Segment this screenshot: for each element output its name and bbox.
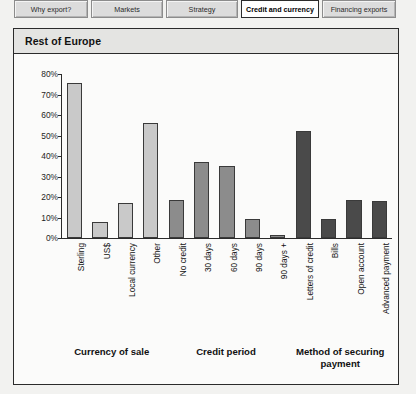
y-axis-tick-mark: [58, 177, 62, 178]
bar-advanced-payment: [372, 201, 387, 238]
tab-why-export[interactable]: Why export?: [14, 0, 88, 18]
tab-financing-exports[interactable]: Financing exports: [322, 0, 396, 18]
x-axis-label: Local currency: [128, 243, 136, 297]
x-axis-label: No credit: [179, 243, 187, 276]
x-axis-label: Advanced payment: [382, 243, 390, 314]
bar-60-days: [219, 166, 234, 238]
x-axis-group-labels: Currency of saleCredit periodMethod of s…: [61, 346, 391, 384]
x-axis-label: 90 days +: [280, 243, 288, 279]
x-axis-label: 90 days: [255, 243, 263, 272]
y-axis-tick-label: 40%: [41, 151, 58, 161]
x-axis-label: Letters of credit: [306, 243, 314, 300]
chart-panel: Rest of Europe 0%10%20%30%40%50%60%70%80…: [13, 28, 399, 385]
chart-axes: SterlingUS$Local currencyOtherNo credit3…: [61, 54, 391, 384]
tab-credit-and-currency[interactable]: Credit and currency: [241, 0, 319, 18]
bar-local-currency: [118, 203, 133, 238]
plot-wrapper: 0%10%20%30%40%50%60%70%80% SterlingUS$Lo…: [14, 54, 398, 384]
group-label: Currency of sale: [61, 346, 163, 358]
group-label: Credit period: [163, 346, 290, 358]
x-axis-category-labels: SterlingUS$Local currencyOtherNo credit3…: [61, 240, 391, 340]
y-axis-tick-mark: [58, 238, 62, 239]
page-title: Rest of Europe: [25, 35, 101, 47]
plot-area: [61, 74, 392, 239]
bar-series: [62, 74, 392, 238]
tab-bar: Why export? Markets Strategy Credit and …: [0, 0, 416, 22]
y-axis-tick-label: 60%: [41, 110, 58, 120]
bar-no-credit: [169, 200, 184, 238]
y-axis-tick-label: 50%: [41, 131, 58, 141]
y-axis-tick-mark: [58, 95, 62, 96]
x-axis-label: Sterling: [77, 243, 85, 271]
x-axis-label: 60 days: [230, 243, 238, 272]
x-axis-label: 30 days: [204, 243, 212, 272]
y-axis-tick-label: 80%: [41, 69, 58, 79]
bar-sterling: [67, 83, 82, 238]
y-axis-tick-mark: [58, 136, 62, 137]
y-axis-tick-label: 20%: [41, 192, 58, 202]
bar-other: [143, 123, 158, 238]
y-axis-tick-mark: [58, 197, 62, 198]
x-axis-label: Open account: [357, 243, 365, 295]
x-axis-label: Other: [153, 243, 161, 264]
y-axis-labels: 0%10%20%30%40%50%60%70%80%: [28, 54, 58, 384]
y-axis-tick-mark: [58, 74, 62, 75]
y-axis-tick-label: 0%: [46, 233, 58, 243]
y-axis-tick-label: 70%: [41, 90, 58, 100]
bar-30-days: [194, 162, 209, 238]
tab-markets[interactable]: Markets: [91, 0, 163, 18]
y-axis-tick-mark: [58, 218, 62, 219]
x-axis-label: US$: [103, 243, 111, 259]
bar-bills: [321, 219, 336, 238]
y-axis-tick-label: 30%: [41, 172, 58, 182]
x-axis-label: Bills: [331, 243, 339, 258]
bar-letters-of-credit: [296, 131, 311, 238]
y-axis-tick-mark: [58, 156, 62, 157]
bar-90-days: [270, 235, 285, 238]
bar-90-days: [245, 219, 260, 238]
y-axis-tick-label: 10%: [41, 213, 58, 223]
group-label: Method of securing payment: [289, 346, 391, 369]
bar-open-account: [346, 200, 361, 238]
y-axis-tick-mark: [58, 115, 62, 116]
bar-us: [92, 222, 107, 238]
tab-strategy[interactable]: Strategy: [166, 0, 238, 18]
